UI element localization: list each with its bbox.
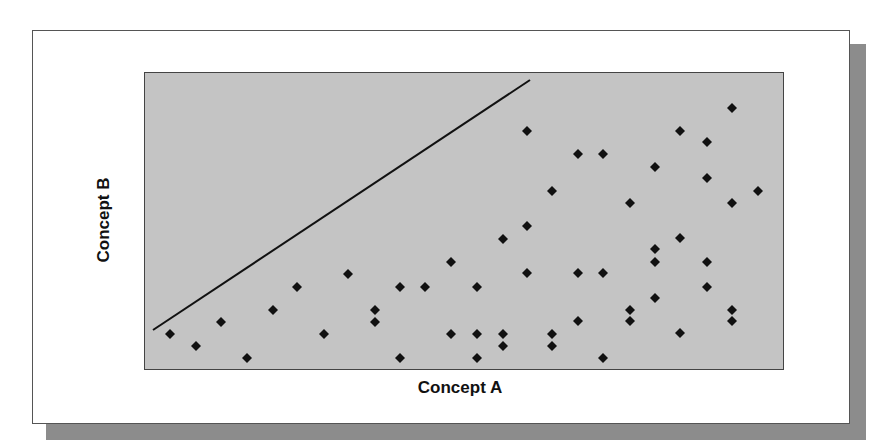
data-point-diamond — [650, 162, 660, 172]
data-point-diamond — [727, 316, 737, 326]
data-point-diamond — [650, 257, 660, 267]
data-point-diamond — [472, 329, 482, 339]
data-point-diamond — [598, 268, 608, 278]
data-point-diamond — [242, 353, 252, 363]
x-axis-label: Concept A — [380, 378, 540, 398]
data-point-diamond — [343, 269, 353, 279]
data-point-diamond — [625, 198, 635, 208]
data-point-diamond — [216, 317, 226, 327]
data-point-diamond — [547, 341, 557, 351]
data-point-diamond — [165, 329, 175, 339]
reference-line — [153, 80, 530, 330]
data-point-diamond — [395, 353, 405, 363]
data-point-diamond — [446, 257, 456, 267]
data-point-diamond — [319, 329, 329, 339]
data-point-diamond — [650, 244, 660, 254]
data-point-diamond — [675, 126, 685, 136]
data-point-diamond — [498, 329, 508, 339]
data-point-diamond — [370, 305, 380, 315]
data-point-diamond — [702, 137, 712, 147]
y-axis-label: Concept B — [94, 140, 114, 300]
data-point-diamond — [702, 257, 712, 267]
data-point-diamond — [727, 198, 737, 208]
data-point-diamond — [547, 186, 557, 196]
data-point-diamond — [522, 221, 532, 231]
data-point-diamond — [547, 329, 557, 339]
data-point-diamond — [650, 293, 660, 303]
data-point-diamond — [753, 186, 763, 196]
data-point-diamond — [727, 305, 737, 315]
data-point-diamond — [598, 353, 608, 363]
data-point-diamond — [675, 328, 685, 338]
data-point-diamond — [702, 282, 712, 292]
data-point-diamond — [472, 353, 482, 363]
data-point-diamond — [522, 126, 532, 136]
data-points — [165, 103, 763, 363]
data-point-diamond — [573, 149, 583, 159]
data-point-diamond — [395, 282, 405, 292]
diagonal-line — [153, 80, 530, 330]
data-point-diamond — [625, 305, 635, 315]
data-point-diamond — [675, 233, 685, 243]
data-point-diamond — [598, 149, 608, 159]
data-point-diamond — [498, 341, 508, 351]
data-point-diamond — [573, 268, 583, 278]
data-point-diamond — [446, 329, 456, 339]
data-point-diamond — [292, 282, 302, 292]
data-point-diamond — [522, 268, 532, 278]
data-point-diamond — [573, 316, 583, 326]
data-point-diamond — [191, 341, 201, 351]
data-point-diamond — [268, 305, 278, 315]
data-point-diamond — [727, 103, 737, 113]
data-point-diamond — [498, 234, 508, 244]
data-point-diamond — [702, 173, 712, 183]
data-point-diamond — [420, 282, 430, 292]
data-point-diamond — [370, 317, 380, 327]
data-point-diamond — [625, 316, 635, 326]
data-point-diamond — [472, 282, 482, 292]
